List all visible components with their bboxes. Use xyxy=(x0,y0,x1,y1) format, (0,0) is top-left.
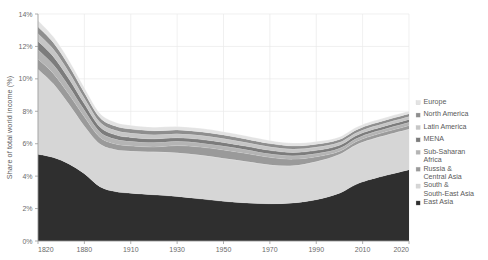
x-tick-label: 1990 xyxy=(308,246,324,253)
legend-label: Europe xyxy=(424,98,447,106)
legend-label: Latin America xyxy=(424,123,467,131)
legend-label: South & xyxy=(424,181,450,189)
x-tick-label: 1950 xyxy=(216,246,232,253)
x-tick-label: 1820 xyxy=(38,246,54,253)
legend-swatch xyxy=(416,138,420,142)
y-tick-label: 10% xyxy=(18,75,32,82)
stacked-area-chart: 0%2%4%6%8%10%12%14%182018801910193019501… xyxy=(0,0,488,260)
legend-item[interactable]: Latin America xyxy=(416,123,467,131)
legend-swatch xyxy=(416,101,420,105)
x-tick-label: 1970 xyxy=(262,246,278,253)
legend-item[interactable]: North America xyxy=(416,110,468,118)
y-tick-label: 4% xyxy=(22,173,32,180)
y-tick-label: 14% xyxy=(18,11,32,18)
legend-swatch xyxy=(416,167,420,171)
legend-swatch xyxy=(416,201,420,205)
y-tick-label: 0% xyxy=(22,238,32,245)
y-tick-label: 2% xyxy=(22,205,32,212)
x-tick-label: 2020 xyxy=(393,246,409,253)
x-tick-label: 1910 xyxy=(123,246,139,253)
legend-label: Russia & xyxy=(424,165,453,173)
legend-label-line2: Central Asia xyxy=(424,173,462,181)
legend-swatch xyxy=(416,184,420,188)
legend-label: East Asia xyxy=(424,198,454,206)
legend-label-line2: Africa xyxy=(424,156,442,164)
x-tick-label: 1880 xyxy=(77,246,93,253)
legend-label: Sub-Saharan xyxy=(424,148,466,156)
x-tick-label: 2010 xyxy=(355,246,371,253)
legend-label-line2: South-East Asia xyxy=(424,190,475,198)
legend-swatch xyxy=(416,125,420,129)
y-tick-label: 6% xyxy=(22,140,32,147)
legend-swatch xyxy=(416,150,420,154)
legend-label: MENA xyxy=(424,135,445,143)
y-tick-label: 8% xyxy=(22,108,32,115)
y-axis-title: Share of total world income (%) xyxy=(5,76,14,179)
y-tick-label: 12% xyxy=(18,43,32,50)
x-tick-label: 1930 xyxy=(169,246,185,253)
legend-swatch xyxy=(416,113,420,117)
chart-container: 0%2%4%6%8%10%12%14%182018801910193019501… xyxy=(0,0,488,260)
legend-label: North America xyxy=(424,110,469,118)
